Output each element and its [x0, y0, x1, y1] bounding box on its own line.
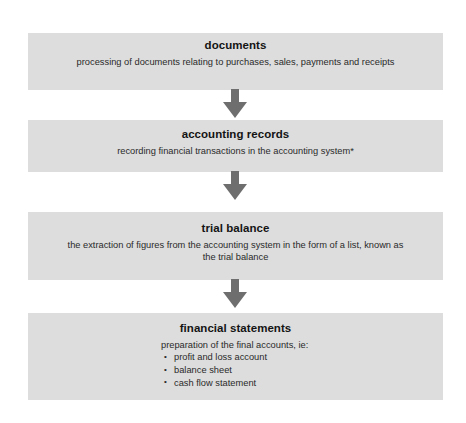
- financial-statements-body: preparation of the final accounts, ie: p…: [130, 339, 341, 389]
- stage-title-accounting-records: accounting records: [28, 127, 443, 141]
- flow-stage-financial-statements: financial statements preparation of the …: [28, 313, 443, 400]
- accounting-process-flowchart: documents processing of documents relati…: [0, 0, 466, 423]
- list-item: cash flow statement: [174, 377, 341, 390]
- flow-stage-trial-balance: trial balance the extraction of figures …: [28, 212, 443, 280]
- list-item: profit and loss account: [174, 351, 341, 364]
- flow-stage-documents: documents processing of documents relati…: [28, 33, 443, 90]
- stage-description-documents: processing of documents relating to purc…: [71, 56, 401, 68]
- stage-title-financial-statements: financial statements: [28, 321, 443, 335]
- flow-stage-accounting-records: accounting records recording financial t…: [28, 120, 443, 172]
- stage-title-documents: documents: [28, 38, 443, 52]
- stage-title-trial-balance: trial balance: [28, 221, 443, 235]
- list-item: balance sheet: [174, 364, 341, 377]
- financial-statements-list: profit and loss account balance sheet ca…: [161, 351, 341, 389]
- stage-description-trial-balance: the extraction of figures from the accou…: [66, 239, 406, 263]
- down-arrow-icon: [221, 89, 249, 119]
- down-arrow-icon: [221, 171, 249, 201]
- down-arrow-icon: [221, 279, 249, 309]
- stage-description-financial-statements: preparation of the final accounts, ie:: [161, 339, 341, 351]
- stage-description-accounting-records: recording financial transactions in the …: [56, 145, 416, 157]
